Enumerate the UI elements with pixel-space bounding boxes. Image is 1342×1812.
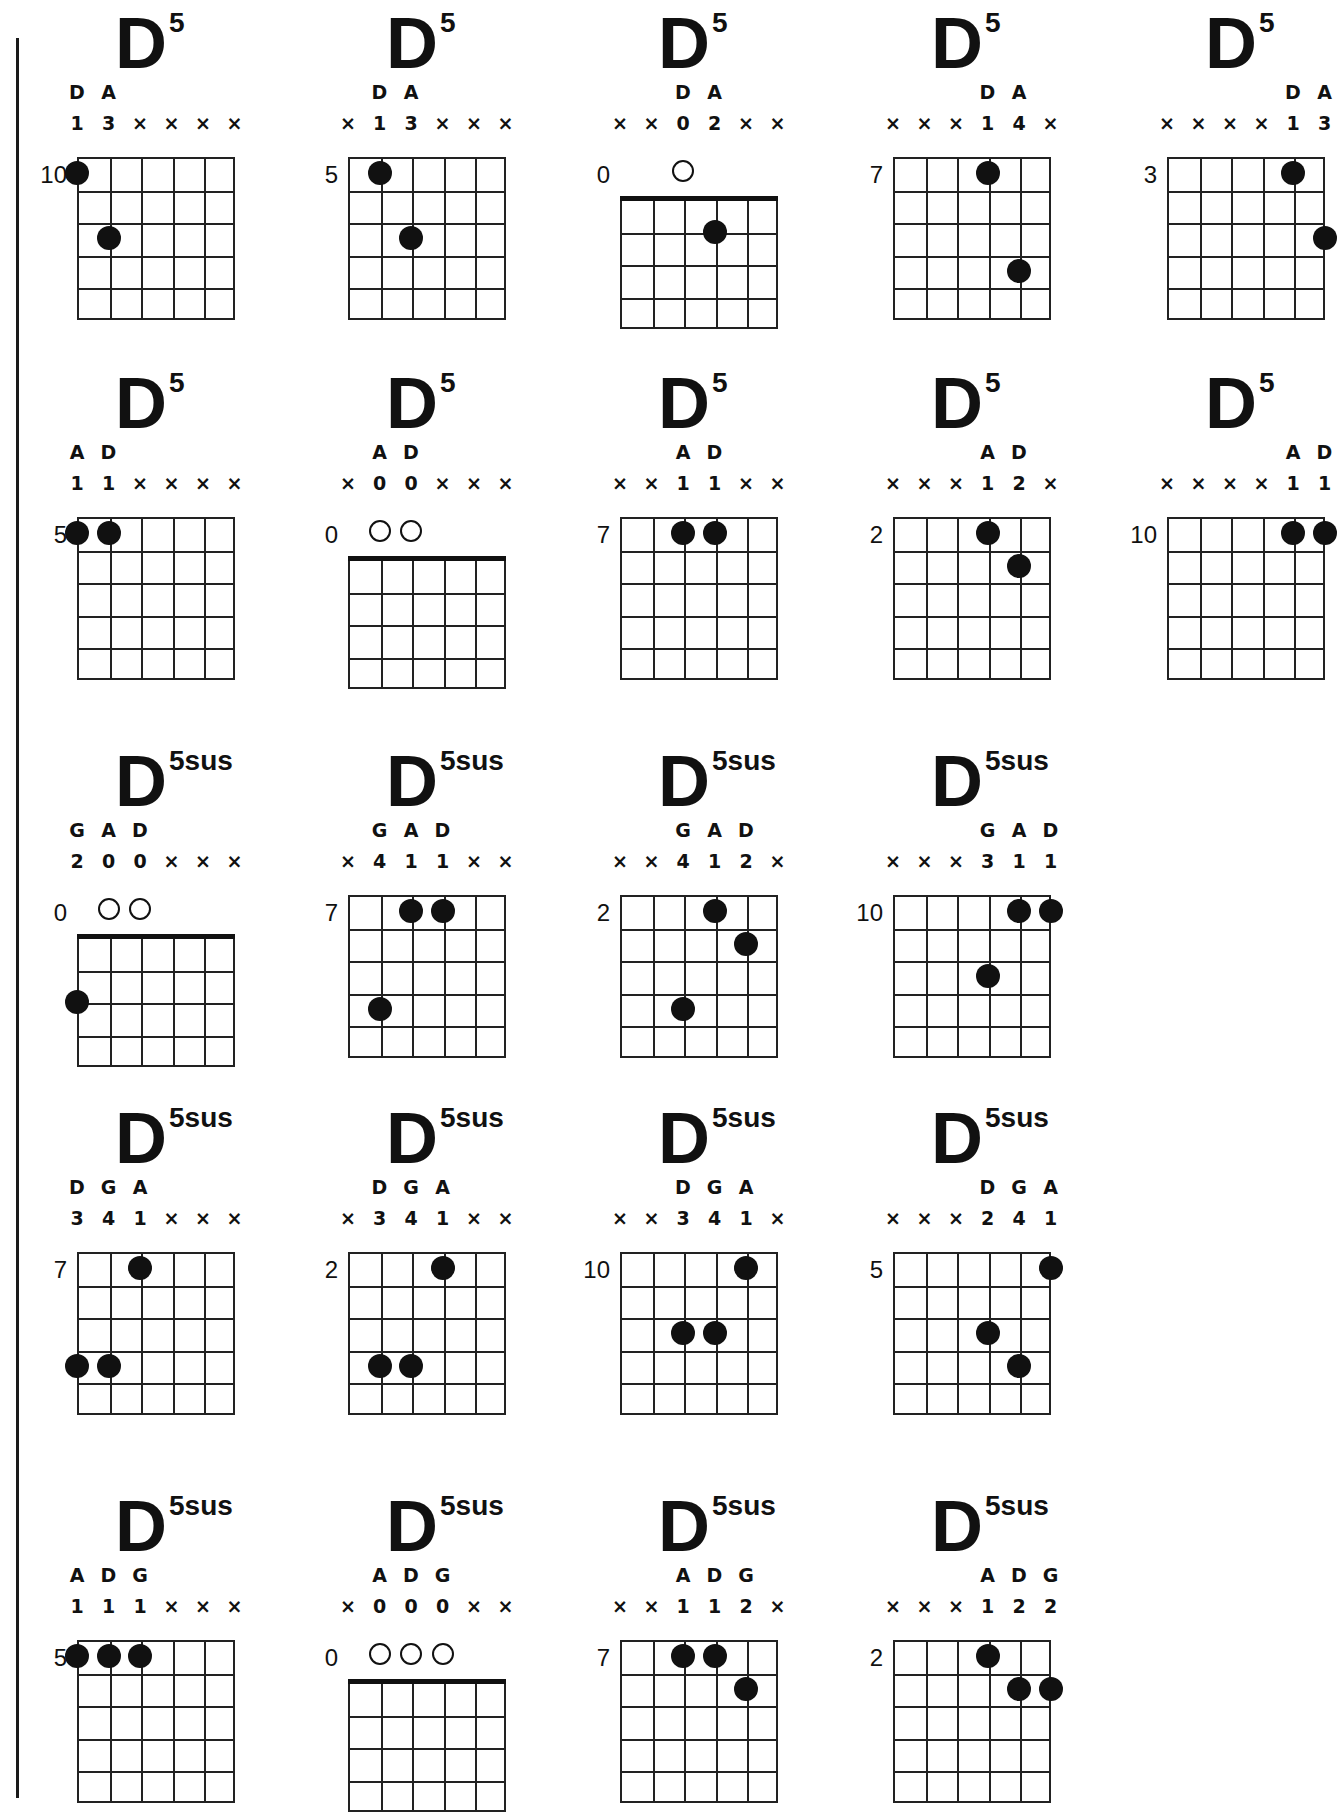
muted-string-icon: ×	[877, 472, 909, 494]
finger-dot-icon	[1007, 1354, 1031, 1378]
muted-string-icon: ×	[1246, 112, 1278, 134]
muted-string-icon: ×	[636, 472, 668, 494]
string-note-label: D	[395, 1564, 427, 1586]
string-line	[444, 1684, 446, 1810]
fret-line	[895, 1026, 1049, 1028]
chord-root: D	[931, 363, 981, 443]
string-line	[926, 159, 928, 318]
finger-number: 3	[972, 850, 1004, 872]
fret-line	[895, 648, 1049, 650]
fretboard-grid	[348, 1252, 506, 1415]
finger-dot-icon	[976, 1644, 1000, 1668]
string-note-label: G	[667, 819, 699, 841]
fret-line	[1169, 256, 1323, 258]
fret-line	[622, 298, 776, 300]
chord-title: D5	[931, 367, 981, 439]
muted-string-icon: ×	[604, 1207, 636, 1229]
string-line	[653, 519, 655, 678]
muted-string-icon: ×	[427, 472, 459, 494]
string-line	[204, 1254, 206, 1413]
string-line	[684, 201, 686, 327]
finger-number: 1	[1309, 472, 1341, 494]
finger-dot-icon	[976, 964, 1000, 988]
fret-line	[79, 1036, 233, 1038]
string-line	[747, 519, 749, 678]
chord-title: D5	[658, 367, 708, 439]
string-line	[444, 159, 446, 318]
fretboard-grid	[893, 1252, 1051, 1415]
fret-position-label: 5	[298, 161, 338, 189]
fret-line	[350, 1383, 504, 1385]
fret-line	[622, 1351, 776, 1353]
finger-dot-icon	[368, 997, 392, 1021]
chord-title: D5sus	[931, 1490, 981, 1562]
string-line	[747, 1642, 749, 1801]
string-note-label: A	[364, 1564, 396, 1586]
finger-number: 1	[667, 1595, 699, 1617]
fretboard-grid	[620, 895, 778, 1058]
muted-string-icon: ×	[490, 472, 522, 494]
fret-line	[622, 265, 776, 267]
finger-number: 0	[364, 472, 396, 494]
finger-number: 1	[972, 112, 1004, 134]
fret-line	[350, 288, 504, 290]
string-note-label: G	[395, 1176, 427, 1198]
chord-root: D	[115, 1486, 165, 1566]
fret-position-label: 7	[27, 1256, 67, 1284]
finger-dot-icon	[97, 1644, 121, 1668]
string-note-label: A	[972, 1564, 1004, 1586]
chord-quality: 5	[440, 9, 456, 37]
muted-string-icon: ×	[940, 850, 972, 872]
muted-string-icon: ×	[877, 1595, 909, 1617]
fret-line	[622, 929, 776, 931]
finger-number: 1	[1035, 1207, 1067, 1229]
string-line	[1231, 159, 1233, 318]
string-note-label: D	[667, 81, 699, 103]
finger-dot-icon	[399, 1354, 423, 1378]
chord-root: D	[386, 363, 436, 443]
chord-root: D	[658, 3, 708, 83]
string-line	[204, 939, 206, 1065]
muted-string-icon: ×	[458, 472, 490, 494]
chord-root: D	[386, 1486, 436, 1566]
string-line	[957, 1254, 959, 1413]
nut-bar	[77, 934, 235, 939]
muted-string-icon: ×	[909, 472, 941, 494]
fret-line	[622, 1318, 776, 1320]
chord-root: D	[115, 1098, 165, 1178]
fret-line	[350, 961, 504, 963]
string-line	[926, 519, 928, 678]
string-line	[204, 1642, 206, 1801]
string-line	[957, 897, 959, 1056]
string-note-label: G	[364, 819, 396, 841]
chord-quality: 5	[440, 369, 456, 397]
string-note-label: G	[1035, 1564, 1067, 1586]
muted-string-icon: ×	[909, 1207, 941, 1229]
muted-string-icon: ×	[458, 1595, 490, 1617]
fret-line	[1169, 191, 1323, 193]
chord-quality: 5	[1259, 9, 1275, 37]
fret-line	[350, 994, 504, 996]
chord-title: D5	[115, 367, 165, 439]
chord-title: D5sus	[658, 1102, 708, 1174]
nut-bar	[620, 196, 778, 201]
fret-position-label: 5	[27, 1644, 67, 1672]
fret-position-label: 2	[298, 1256, 338, 1284]
fret-line	[350, 1781, 504, 1783]
fret-line	[895, 929, 1049, 931]
muted-string-icon: ×	[604, 850, 636, 872]
fret-line	[79, 1383, 233, 1385]
string-note-label: D	[699, 441, 731, 463]
chord-title: D5sus	[658, 1490, 708, 1562]
muted-string-icon: ×	[1214, 112, 1246, 134]
fret-line	[895, 223, 1049, 225]
chord-title: D5	[115, 7, 165, 79]
open-string-icon	[432, 1643, 454, 1665]
string-note-label: D	[1003, 1564, 1035, 1586]
muted-string-icon: ×	[604, 112, 636, 134]
string-line	[926, 1642, 928, 1801]
muted-string-icon: ×	[636, 1595, 668, 1617]
finger-number: 1	[699, 1595, 731, 1617]
finger-number: 4	[1003, 1207, 1035, 1229]
fret-line	[895, 961, 1049, 963]
